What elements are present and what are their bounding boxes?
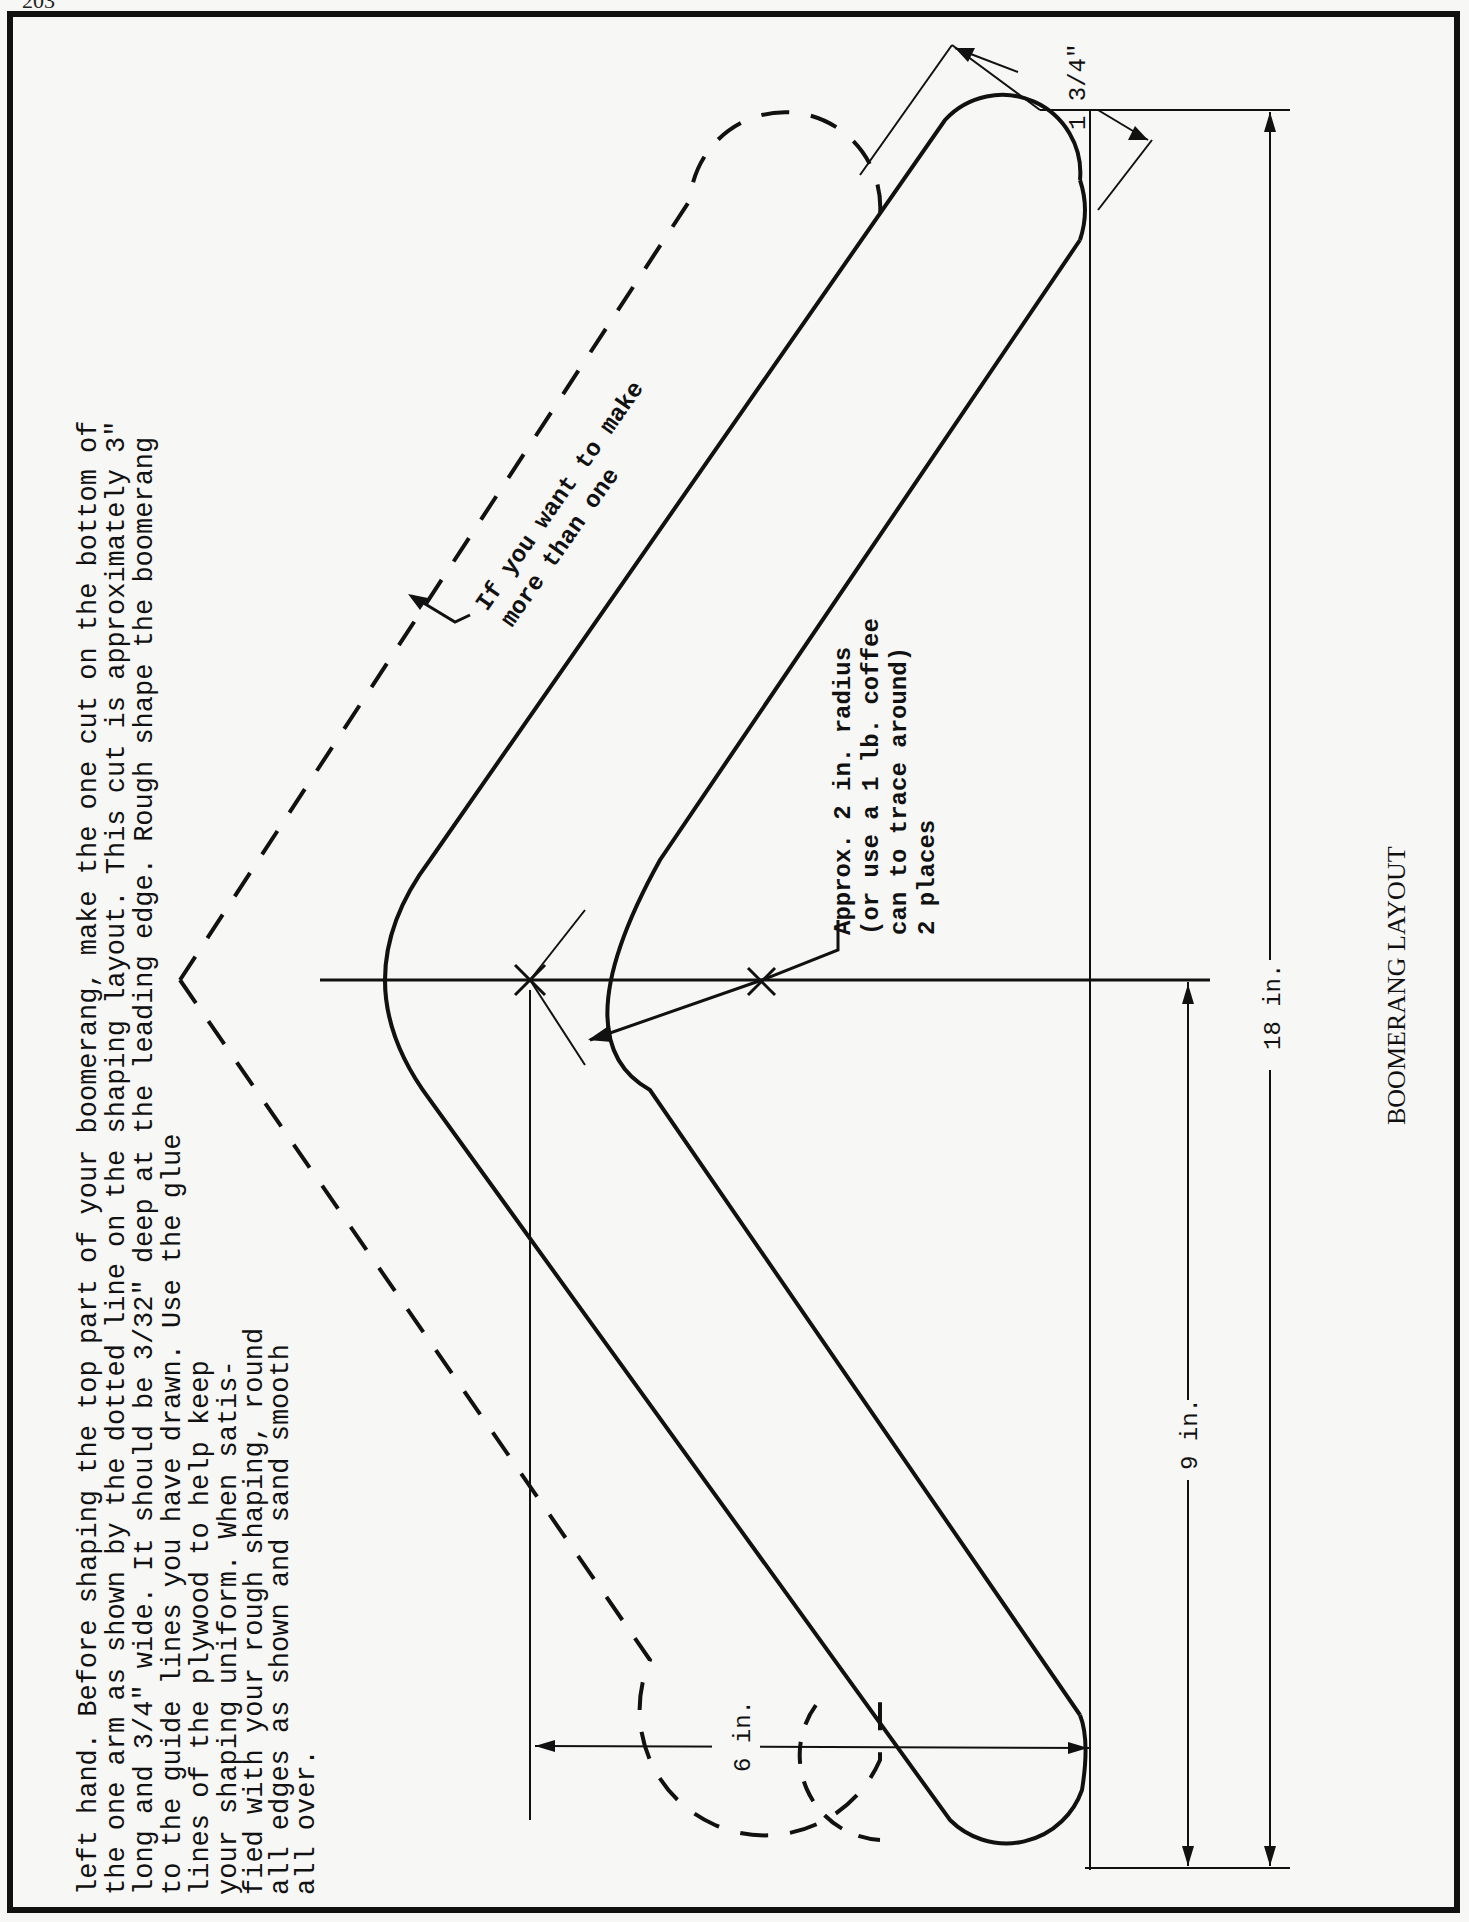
arm-tip-top bbox=[1080, 180, 1085, 240]
instruction-line: the one arm as shown by the dotted line … bbox=[102, 421, 132, 1895]
more-than-one-note: If you want to make more than one bbox=[471, 376, 650, 632]
arrowhead-icon bbox=[588, 1025, 612, 1042]
note-line: 2 places bbox=[914, 820, 941, 935]
arrowhead-icon bbox=[1182, 984, 1194, 1004]
arrowhead-icon bbox=[1264, 1846, 1276, 1866]
instructions-block: left hand. Before shaping the top part o… bbox=[74, 421, 322, 1895]
figure-caption: BOOMERANG LAYOUT bbox=[1382, 846, 1411, 1125]
dashed-arc bbox=[800, 1700, 880, 1840]
dim-width-label: 1 3/4" bbox=[1065, 44, 1092, 130]
instruction-line: long and 3/4" wide. It should be 3/32" d… bbox=[130, 437, 160, 1895]
construction-line bbox=[530, 910, 585, 980]
page-number: 203 bbox=[22, 0, 55, 14]
boomerang-layout-drawing: left hand. Before shaping the top part o… bbox=[0, 0, 1469, 1922]
dim-6in-label: 6 in. bbox=[730, 1700, 757, 1772]
arrowhead-icon bbox=[1264, 112, 1276, 132]
arrowhead-icon bbox=[535, 1740, 555, 1752]
arrowhead-icon bbox=[1128, 126, 1148, 140]
note-line: Approx. 2 in. radius bbox=[830, 647, 857, 935]
boomerang-inner-edge bbox=[607, 240, 1080, 1715]
dim-width-ext-line bbox=[1098, 140, 1152, 210]
dim-18in-label: 18 in. bbox=[1260, 964, 1287, 1050]
note-line: (or use a 1 lb. coffee bbox=[858, 618, 885, 935]
boomerang-outer-edge bbox=[385, 95, 1086, 1844]
construction-line bbox=[530, 980, 585, 1065]
instruction-line: all over. bbox=[292, 1749, 322, 1895]
dim-6in-line bbox=[535, 1746, 1090, 1748]
arrowhead-icon bbox=[408, 594, 428, 610]
instruction-line: left hand. Before shaping the top part o… bbox=[74, 421, 104, 1895]
instruction-line: lines of the plywood to help keep bbox=[186, 1360, 216, 1895]
document-page: 203 left hand. Before shaping the top pa… bbox=[0, 0, 1469, 1922]
radius-note: Approx. 2 in. radius (or use a 1 lb. cof… bbox=[830, 618, 941, 935]
note-line: can to trace around) bbox=[886, 647, 913, 935]
dim-9in-label: 9 in. bbox=[1177, 1398, 1204, 1470]
instruction-line: to the guide lines you have drawn. Use t… bbox=[158, 1133, 188, 1895]
dim-width-ext-line bbox=[860, 45, 952, 175]
arrowhead-icon bbox=[1182, 1846, 1194, 1866]
